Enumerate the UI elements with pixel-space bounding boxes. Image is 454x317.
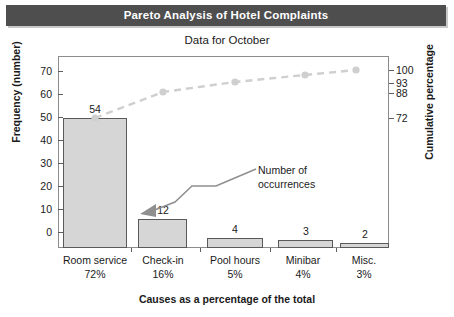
annotation-label: Number of occurrences <box>258 163 315 191</box>
x-tick-2 <box>200 248 201 252</box>
chart-title: Pareto Analysis of Hotel Complaints <box>6 5 446 26</box>
tick-mark-right-88 <box>389 93 394 94</box>
y-tick-left-30: 30 <box>26 157 52 169</box>
bar-room-service[interactable] <box>63 118 127 248</box>
y-axis-label-right: Cumulative percentage <box>423 22 435 182</box>
bar-pool-hours[interactable] <box>207 238 263 248</box>
y-tick-left-0: 0 <box>26 226 52 238</box>
bar-minibar[interactable] <box>278 240 333 248</box>
x-category-pct-room-service: 72% <box>57 268 133 282</box>
x-tick-3 <box>270 248 271 252</box>
pareto-chart-figure: Pareto Analysis of Hotel Complaints Data… <box>0 0 454 317</box>
y-tick-right-72: 72 <box>396 112 426 124</box>
tick-mark-left-60 <box>58 94 63 95</box>
x-tick-4 <box>336 248 337 252</box>
x-axis-label: Causes as a percentage of the total <box>0 293 454 305</box>
x-category-name-minibar: Minibar <box>271 254 335 268</box>
x-tick-1 <box>131 248 132 252</box>
y-tick-right-88: 88 <box>396 87 426 99</box>
bar-check-in[interactable] <box>138 219 187 248</box>
x-category-pct-check-in: 16% <box>128 268 198 282</box>
x-category-pct-minibar: 4% <box>271 268 335 282</box>
bar-value-minibar: 3 <box>286 225 326 237</box>
annotation-line-2: occurrences <box>258 177 315 191</box>
x-category-minibar: Minibar 4% <box>271 254 335 281</box>
bar-misc[interactable] <box>340 243 389 248</box>
annotation-line-1: Number of <box>258 163 315 177</box>
y-axis-label-left: Frequency (number) <box>10 12 22 172</box>
y-tick-left-60: 60 <box>26 88 52 100</box>
y-tick-right-100: 100 <box>396 64 426 76</box>
y-tick-left-20: 20 <box>26 180 52 192</box>
y-tick-left-10: 10 <box>26 203 52 215</box>
tick-mark-right-72 <box>389 118 394 119</box>
x-category-pct-pool-hours: 5% <box>200 268 270 282</box>
bar-value-room-service: 54 <box>75 103 115 115</box>
chart-title-bar: Pareto Analysis of Hotel Complaints <box>6 5 446 26</box>
y-tick-left-70: 70 <box>26 65 52 77</box>
tick-mark-left-70 <box>58 71 63 72</box>
x-category-check-in: Check-in 16% <box>128 254 198 281</box>
tick-mark-right-93 <box>389 83 394 84</box>
x-category-pool-hours: Pool hours 5% <box>200 254 270 281</box>
bar-value-check-in: 12 <box>143 204 183 216</box>
x-category-name-room-service: Room service <box>57 254 133 268</box>
bar-value-misc: 2 <box>345 228 385 240</box>
chart-subtitle: Data for October <box>0 34 454 46</box>
x-category-pct-misc: 3% <box>336 268 392 282</box>
y-tick-left-40: 40 <box>26 134 52 146</box>
bar-value-pool-hours: 4 <box>215 223 255 235</box>
tick-mark-right-100 <box>389 70 394 71</box>
x-category-misc: Misc. 3% <box>336 254 392 281</box>
x-category-name-pool-hours: Pool hours <box>200 254 270 268</box>
y-tick-left-50: 50 <box>26 111 52 123</box>
x-category-name-misc: Misc. <box>336 254 392 268</box>
x-category-room-service: Room service 72% <box>57 254 133 281</box>
x-category-name-check-in: Check-in <box>128 254 198 268</box>
